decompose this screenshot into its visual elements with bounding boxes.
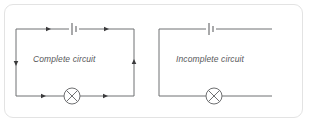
arrow-top-right [104,27,109,32]
battery-symbol [209,23,213,35]
figure-root: Complete circuit Incomplete circuit [0,0,309,124]
arrow-bottom-right [103,94,108,99]
complete-circuit-label: Complete circuit [33,54,96,64]
arrow-bottom-left [41,94,46,99]
arrow-left-wire [14,61,19,66]
lamp-symbol [206,88,222,104]
arrow-right-wire [132,59,137,64]
incomplete-circuit-label: Incomplete circuit [176,54,244,64]
lamp-symbol [64,88,80,104]
arrow-top-left [46,27,51,32]
battery-symbol [72,23,76,35]
